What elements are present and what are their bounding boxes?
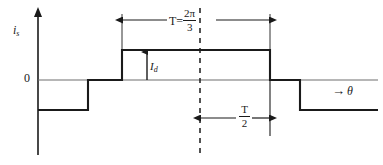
amplitude-label-subscript: d xyxy=(154,65,158,74)
y-axis-label: is xyxy=(13,24,19,38)
waveform-figure: is 0 Id →θ T= 2π 3 T 2 xyxy=(0,0,383,165)
half-period-numerator: T xyxy=(240,104,249,116)
y-axis-label-subscript: s xyxy=(16,29,19,38)
y-axis-arrowhead xyxy=(34,7,42,17)
origin-label: 0 xyxy=(24,72,30,84)
period-numerator: 2π xyxy=(183,8,196,20)
x-axis-label: →θ xyxy=(332,84,353,97)
period-label: T= 2π 3 xyxy=(168,8,197,33)
half-period-fraction: T 2 xyxy=(239,104,250,129)
x-axis-arrow-icon: → xyxy=(332,83,345,98)
period-denominator: 3 xyxy=(186,21,194,33)
period-label-lhs: T= xyxy=(169,15,183,27)
y-axis xyxy=(34,7,42,155)
half-period-denominator: 2 xyxy=(241,117,249,129)
period-fraction: 2π 3 xyxy=(183,8,196,33)
half-period-label: T 2 xyxy=(237,104,252,129)
amplitude-label: Id xyxy=(150,61,158,74)
x-axis-label-text: θ xyxy=(347,84,353,98)
